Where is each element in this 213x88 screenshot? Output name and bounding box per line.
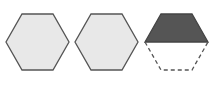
hexagon-3-top-half-shaded [145, 14, 208, 42]
fraction-hexagons-diagram [0, 0, 213, 88]
hexagon-2 [75, 14, 138, 70]
hexagon-1 [6, 14, 69, 70]
hexagon-3-bottom-half-dashed [145, 42, 208, 70]
